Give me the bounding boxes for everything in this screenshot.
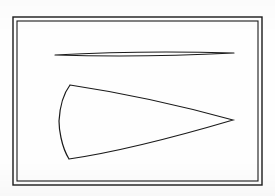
- figure-background: [0, 0, 275, 196]
- figure-root: Two outlined planar regions inside a rec…: [0, 0, 275, 196]
- line-drawing-canvas: [0, 0, 275, 196]
